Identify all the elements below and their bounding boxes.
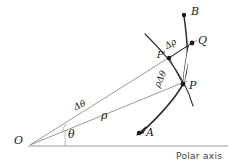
point-dot-B bbox=[182, 13, 186, 17]
chord-Pprime-to-P bbox=[169, 58, 183, 84]
label-point-O: O bbox=[14, 135, 23, 146]
point-dot-A bbox=[137, 131, 141, 135]
label-point-B: B bbox=[191, 6, 199, 17]
label-rho: ρ bbox=[101, 110, 107, 121]
label-polar-axis: Polar axis bbox=[176, 152, 222, 161]
label-point-P-prime: P' bbox=[157, 51, 166, 60]
label-point-P: P bbox=[189, 80, 196, 91]
theta-angle-arc bbox=[62, 124, 66, 131]
diagram-canvas bbox=[0, 0, 247, 167]
point-dot-Q bbox=[190, 41, 195, 46]
ray-O-to-P bbox=[30, 81, 187, 145]
label-point-Q: Q bbox=[198, 35, 207, 46]
point-dot-P bbox=[181, 82, 186, 87]
label-theta: θ bbox=[68, 129, 75, 140]
polar-coordinate-diagram: O A B P P' Q ρ θ Δθ Δρ ρΔθ Polar axis bbox=[0, 0, 247, 167]
label-point-A: A bbox=[146, 127, 154, 138]
point-dot-Pprime bbox=[167, 56, 171, 60]
